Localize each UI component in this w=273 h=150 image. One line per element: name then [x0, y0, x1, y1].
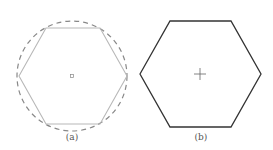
figure: (a) (b)	[0, 0, 273, 150]
center-marker-a	[71, 75, 74, 78]
panel-a: (a)	[17, 21, 127, 142]
circumscribed-circle	[17, 21, 127, 131]
panel-b: (b)	[140, 21, 261, 142]
panel-a-label: (a)	[66, 132, 78, 142]
hexagon-a	[19, 28, 127, 124]
panel-b-label: (b)	[195, 132, 208, 142]
